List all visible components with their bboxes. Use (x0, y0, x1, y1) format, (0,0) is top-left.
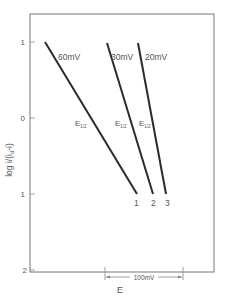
series-end-label-2: 2 (151, 198, 156, 208)
series-line-30mV (107, 43, 153, 194)
y-axis-ticks: 1 0 1 2 (21, 38, 35, 275)
x-axis-label: E (117, 285, 123, 295)
series-label-60mV: 60mV (58, 52, 81, 62)
y-axis-label: log i/(id-i) (4, 143, 15, 177)
y-tick-label-minus-2: 2 (23, 266, 28, 275)
y-tick-label-minus-1: 1 (21, 190, 26, 199)
series-end-label-1: 1 (134, 198, 139, 208)
half-wave-label-3: E1/2 (139, 119, 151, 129)
svg-text:E1/2: E1/2 (75, 119, 87, 129)
series-label-20mV: 20mV (145, 52, 168, 62)
half-wave-label-2: E1/2 (115, 119, 127, 129)
svg-text:log i/(id-i): log i/(id-i) (4, 143, 15, 177)
series-line-60mV (45, 42, 137, 194)
polarographic-log-plot: 1 0 1 2 log i/(id-i) 60mV 30mV 20mV E1/2… (0, 0, 225, 300)
series-label-30mV: 30mV (111, 52, 134, 62)
svg-text:E1/2: E1/2 (115, 119, 127, 129)
half-wave-label-1: E1/2 (75, 119, 87, 129)
series-end-label-3: 3 (165, 198, 170, 208)
x-scale-bar: 100mV (105, 267, 183, 281)
y-tick-label-0: 0 (21, 114, 26, 123)
scale-bar-label: 100mV (134, 274, 155, 281)
y-tick-label-1: 1 (21, 38, 26, 47)
svg-text:E1/2: E1/2 (139, 119, 151, 129)
